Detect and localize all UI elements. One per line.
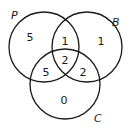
- region-p-b: 1: [62, 35, 69, 48]
- region-b-only: 1: [98, 35, 105, 48]
- set-label-b: B: [112, 16, 120, 29]
- venn-diagram: P B C 5 1 1 2 5 2 0: [0, 0, 130, 128]
- region-c-only: 0: [61, 94, 68, 107]
- region-b-c: 2: [80, 66, 87, 79]
- region-p-only: 5: [27, 31, 34, 44]
- region-p-c: 5: [43, 66, 50, 79]
- set-label-c: C: [94, 112, 102, 125]
- region-p-b-c: 2: [62, 54, 69, 67]
- set-label-p: P: [11, 9, 18, 22]
